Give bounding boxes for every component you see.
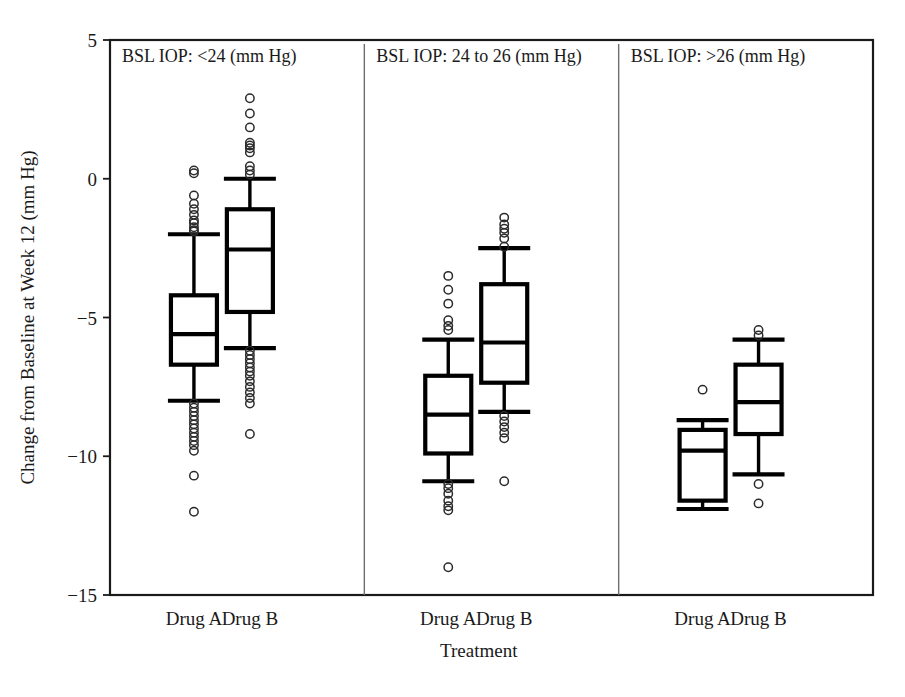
- outlier-point: [190, 471, 198, 479]
- x-axis-title: Treatment: [440, 640, 518, 661]
- y-axis-title: Change from Baseline at Week 12 (mm Hg): [17, 150, 39, 484]
- box-iqr: [680, 430, 726, 501]
- box-iqr: [171, 295, 217, 364]
- outlier-point: [500, 234, 508, 242]
- category-label-1-1: Drug B: [476, 608, 532, 629]
- panel-label-2: BSL IOP: >26 (mm Hg): [631, 46, 806, 67]
- outlier-point: [190, 508, 198, 516]
- outlier-point: [444, 299, 452, 307]
- category-label-1-0: Drug A: [420, 608, 477, 629]
- outlier-point: [500, 477, 508, 485]
- outlier-point: [754, 480, 762, 488]
- outlier-point: [754, 499, 762, 507]
- box-iqr: [736, 365, 782, 434]
- outlier-point: [246, 399, 254, 407]
- box-iqr: [481, 284, 527, 383]
- outlier-point: [190, 191, 198, 199]
- outlier-point: [246, 94, 254, 102]
- outlier-point: [444, 286, 452, 294]
- chart-canvas: 50−5−10−15Change from Baseline at Week 1…: [0, 0, 905, 697]
- y-tick-label: −15: [67, 585, 97, 606]
- y-tick-label: 5: [88, 30, 98, 51]
- outlier-point: [444, 272, 452, 280]
- outlier-point: [246, 430, 254, 438]
- category-label-2-1: Drug B: [730, 608, 786, 629]
- category-label-0-0: Drug A: [166, 608, 223, 629]
- outlier-point: [246, 123, 254, 131]
- outlier-point: [444, 563, 452, 571]
- outlier-point: [190, 447, 198, 455]
- y-tick-label: −10: [67, 446, 97, 467]
- boxplot-figure: 50−5−10−15Change from Baseline at Week 1…: [0, 0, 905, 697]
- panel-label-0: BSL IOP: <24 (mm Hg): [122, 46, 297, 67]
- outlier-point: [500, 434, 508, 442]
- outlier-point: [698, 385, 706, 393]
- category-label-0-1: Drug B: [222, 608, 278, 629]
- y-tick-label: 0: [88, 169, 98, 190]
- outlier-point: [246, 109, 254, 117]
- box-iqr: [227, 209, 273, 312]
- panel-label-1: BSL IOP: 24 to 26 (mm Hg): [376, 46, 581, 67]
- category-label-2-0: Drug A: [674, 608, 731, 629]
- y-tick-label: −5: [77, 308, 97, 329]
